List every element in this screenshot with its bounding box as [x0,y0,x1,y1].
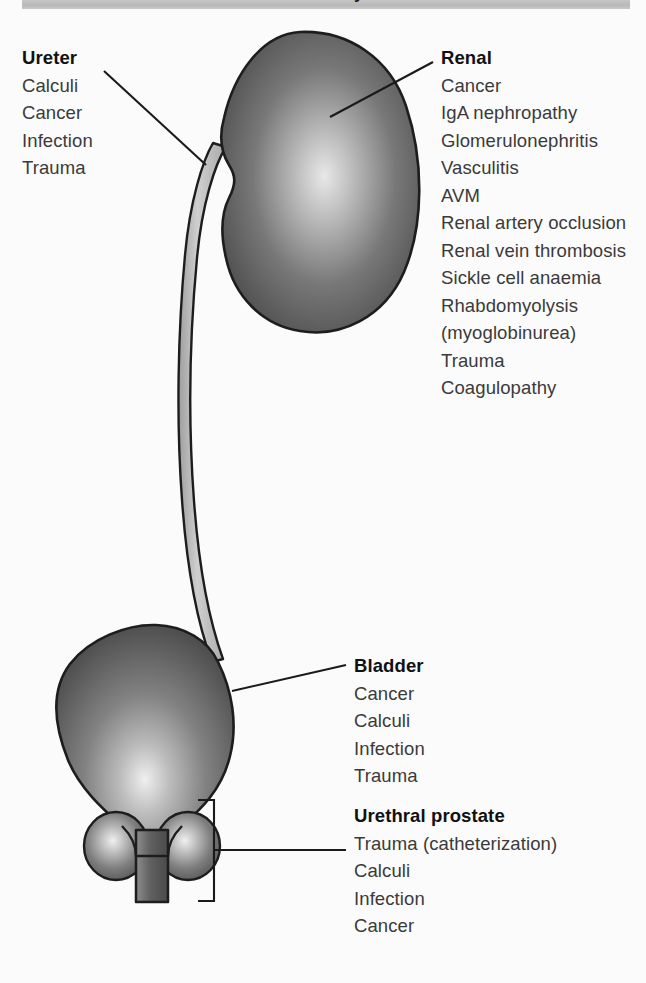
label-block-ureter: Ureter Calculi Cancer Infection Trauma [22,44,93,182]
label-item: (myoglobinurea) [441,319,626,347]
prostate-lobe-left [84,812,148,880]
label-item: IgA nephropathy [441,99,626,127]
leader-line-bladder [232,665,346,691]
kidney-organ [221,32,419,332]
label-item: Renal vein thrombosis [441,237,626,265]
leader-line-ureter [104,71,206,165]
label-heading-ureter: Ureter [22,44,93,72]
urethra-stem [136,830,168,902]
label-item: Infection [354,735,425,763]
label-item: Calculi [354,857,557,885]
label-heading-urethral-prostate: Urethral prostate [354,802,557,830]
label-item: Trauma [441,347,626,375]
prostate-lobe-right [156,812,220,880]
label-item: Vasculitis [441,154,626,182]
label-item: Cancer [354,680,425,708]
label-item: Calculi [22,72,93,100]
label-item: Sickle cell anaemia [441,264,626,292]
label-item: Calculi [354,707,425,735]
header-band: Causes of haematuria by anatomical site [22,0,630,9]
figure-title: Causes of haematuria by anatomical site [22,0,630,4]
label-item: Rhabdomyolysis [441,292,626,320]
label-item: Trauma (catheterization) [354,830,557,858]
leader-line-renal [330,62,433,117]
label-item: AVM [441,182,626,210]
label-item: Cancer [354,912,557,940]
label-heading-bladder: Bladder [354,652,425,680]
bladder-neck [122,826,182,856]
figure-page: Causes of haematuria by anatomical site [0,0,646,983]
label-item: Glomerulonephritis [441,127,626,155]
label-item: Cancer [441,72,626,100]
label-item: Coagulopathy [441,374,626,402]
label-item: Infection [354,885,557,913]
bracket-urethral-prostate [198,800,214,901]
label-item: Cancer [22,99,93,127]
label-item: Trauma [354,762,425,790]
label-block-urethral-prostate: Urethral prostate Trauma (catheterizatio… [354,802,557,940]
bladder-organ [56,625,233,874]
ureter-tube [178,143,226,662]
label-item: Trauma [22,154,93,182]
label-heading-renal: Renal [441,44,626,72]
label-block-bladder: Bladder Cancer Calculi Infection Trauma [354,652,425,790]
label-block-renal: Renal Cancer IgA nephropathy Glomerulone… [441,44,626,402]
label-item: Renal artery occlusion [441,209,626,237]
label-item: Infection [22,127,93,155]
